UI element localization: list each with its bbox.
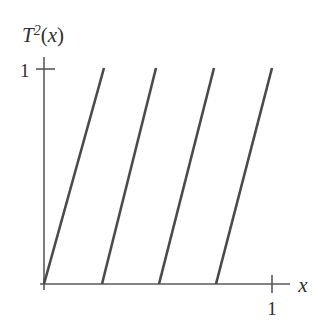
data-branch-2: [102, 68, 156, 284]
data-branch-1: [44, 68, 104, 284]
sawtooth-plot: T2(x) 1 1 x: [0, 0, 330, 336]
y-tick-label-1: 1: [20, 60, 30, 81]
y-axis-label-close-paren: ): [57, 23, 64, 47]
x-axis-label: x: [297, 273, 308, 297]
y-axis-label-exponent: 2: [34, 23, 41, 38]
y-axis-label: T2(x): [22, 23, 64, 47]
figure-container: T2(x) 1 1 x: [0, 0, 330, 336]
data-branch-3: [159, 68, 214, 284]
x-tick-label-1: 1: [267, 298, 277, 319]
y-axis-label-open-paren: (: [41, 23, 48, 47]
data-branch-4: [216, 68, 272, 284]
